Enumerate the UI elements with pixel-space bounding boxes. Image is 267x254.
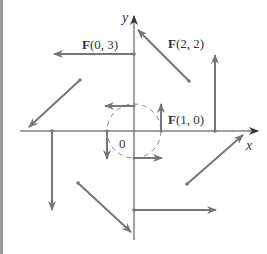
- x-axis-label: x: [245, 138, 253, 153]
- vector-arrow-neg1-0: [106, 130, 109, 160]
- vector-arrow-neg2-neg2: [76, 181, 131, 232]
- vector-arrow-2-neg2: [185, 135, 243, 186]
- label-f-0-3: F(0, 3): [82, 37, 118, 52]
- label-f-2-2-bold: F: [168, 36, 176, 51]
- vector-arrow-neg2-2: [29, 78, 82, 127]
- vector-arrow-0-neg1: [133, 157, 163, 160]
- vector-field-diagram: y x 0 F(0, 3) F(2, 2) F(1, 0): [0, 0, 267, 254]
- y-axis-label: y: [120, 10, 129, 25]
- label-f-2-2: F(2, 2): [168, 36, 204, 51]
- label-f-2-2-args: (2, 2): [176, 36, 204, 51]
- origin-label: 0: [119, 136, 126, 151]
- label-f-0-3-args: (0, 3): [90, 37, 118, 52]
- label-f-1-0-args: (1, 0): [176, 112, 204, 127]
- label-f-1-0: F(1, 0): [168, 112, 204, 127]
- vector-arrow-0-1: [105, 105, 136, 108]
- vector-arrow-neg3-0: [50, 129, 54, 210]
- vector-arrow-1-0: [160, 104, 163, 133]
- vector-arrow-3-0: [213, 55, 217, 133]
- label-f-1-0-bold: F: [168, 112, 176, 127]
- vector-arrow-0-neg3: [132, 208, 216, 212]
- vector-arrow-0-3: [54, 52, 136, 56]
- label-f-0-3-bold: F: [82, 37, 90, 52]
